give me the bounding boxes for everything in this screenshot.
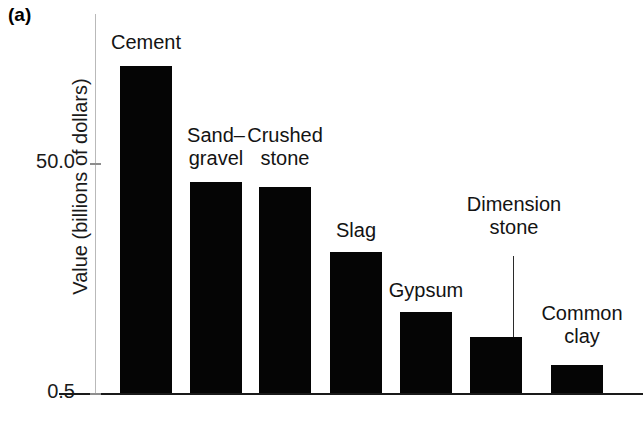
bar-label: Crushed stone [239,124,331,170]
bar [330,252,382,393]
y-tick-mark [90,393,101,395]
bar [551,365,603,393]
y-axis-line [95,14,96,394]
y-axis-title: Value (billions of dollars) [69,17,92,357]
y-tick-label: 0.5 [0,380,85,403]
bar [120,66,172,393]
bar [400,312,452,393]
bar-label: Slag [318,219,394,242]
y-tick-mark [90,163,101,165]
dimension-stone-leader-line [513,256,514,337]
bar [190,182,242,393]
bar-label: Common clay [530,302,634,348]
bar-label: Dimension stone [452,193,576,239]
bar-chart-figure: (a) Value (billions of dollars) 50.00.5 … [0,0,643,429]
bar [259,187,311,393]
x-axis-line [59,393,643,395]
panel-letter: (a) [8,4,31,26]
bar-label: Cement [104,31,188,54]
y-tick-label: 50.0 [0,150,85,173]
bar-label: Gypsum [378,279,474,302]
bar [470,337,522,393]
